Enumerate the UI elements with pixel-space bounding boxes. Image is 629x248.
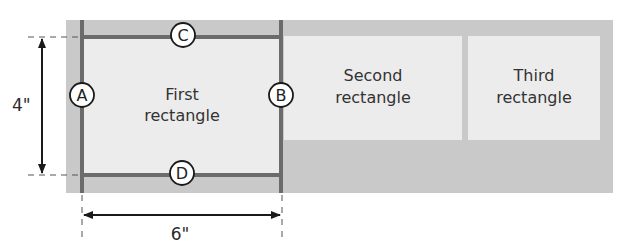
height-dimension-label: 4" bbox=[12, 95, 31, 115]
marker-b: B bbox=[269, 83, 293, 107]
width-dimension-label: 6" bbox=[171, 224, 190, 244]
marker-d: D bbox=[170, 161, 194, 185]
second-rectangle-label-line1: Second bbox=[344, 66, 403, 85]
rectangle-layout-diagram: 4" 6" First rectangle Second rectangle T… bbox=[0, 0, 629, 248]
second-rectangle-label-line2: rectangle bbox=[335, 88, 411, 107]
first-rectangle-label-line2: rectangle bbox=[144, 106, 220, 125]
marker-a-label: A bbox=[77, 86, 88, 105]
third-rectangle-label-line1: Third bbox=[513, 66, 555, 85]
marker-b-label: B bbox=[276, 86, 287, 105]
third-rectangle-label-line2: rectangle bbox=[496, 88, 572, 107]
marker-c: C bbox=[171, 23, 195, 47]
marker-d-label: D bbox=[176, 164, 188, 183]
marker-a: A bbox=[70, 83, 94, 107]
marker-c-label: C bbox=[177, 26, 188, 45]
first-rectangle-label-line1: First bbox=[165, 85, 199, 104]
